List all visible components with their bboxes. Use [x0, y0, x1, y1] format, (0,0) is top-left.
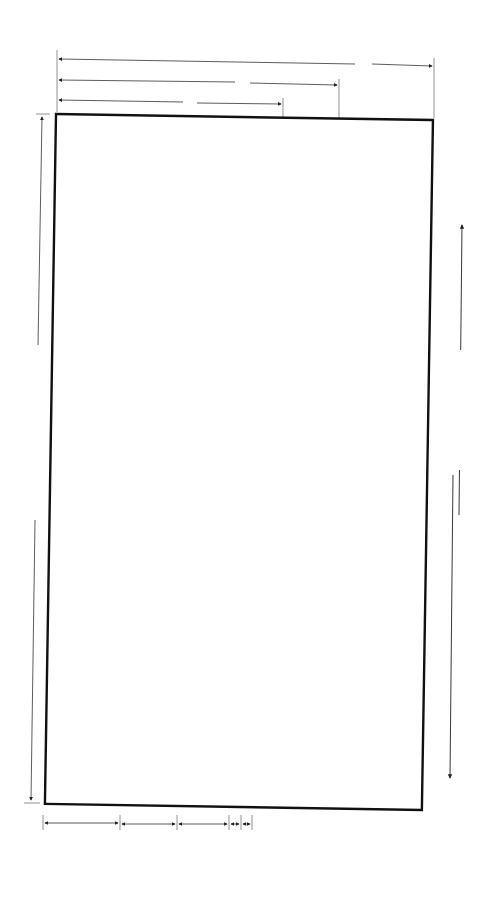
- fabric-piece: [45, 114, 433, 810]
- grain-label-bg: [446, 350, 466, 470]
- width-dimensions: [57, 50, 434, 118]
- length-line-bottom: [31, 520, 35, 800]
- dim-line-36-right: [197, 103, 281, 104]
- grain-direction: [446, 225, 466, 778]
- dim-line-36-left: [59, 100, 183, 102]
- fabric-cutting-diagram: [0, 0, 484, 911]
- grain-arrow-down: [450, 475, 453, 778]
- dim-line-60-left: [59, 59, 355, 64]
- dim-line-45-right: [250, 83, 337, 85]
- length-line-top: [38, 117, 42, 345]
- dim-line-45-left: [59, 80, 235, 82]
- fabric-outline: [45, 114, 433, 810]
- dim-line-60-right: [372, 64, 432, 66]
- bottom-dimensions: [43, 815, 252, 830]
